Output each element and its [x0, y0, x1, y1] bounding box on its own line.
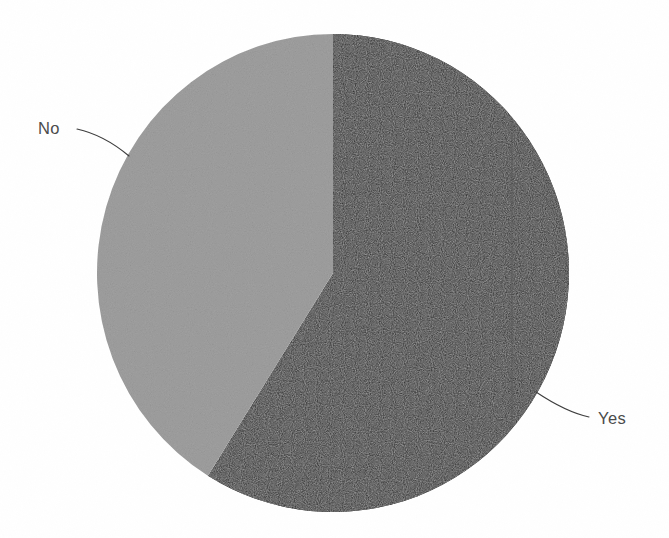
pie-label-no: No: [38, 119, 60, 137]
pie-chart-canvas: No Yes: [0, 0, 669, 538]
pie-chart-figure: No Yes: [0, 0, 669, 538]
pie-label-yes: Yes: [598, 409, 626, 427]
